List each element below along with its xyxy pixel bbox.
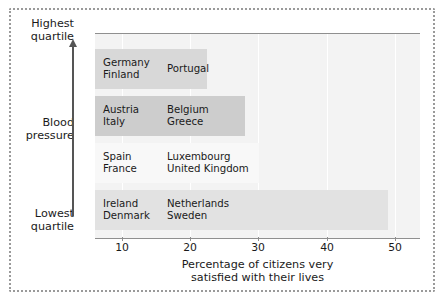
y-axis-top-label: Highest quartile xyxy=(0,18,74,43)
xtick-label-10: 10 xyxy=(102,241,142,254)
y-axis-up-arrow-icon xyxy=(72,46,74,216)
bar-lowest-quartile xyxy=(95,190,388,230)
plot-inner: Germany Finland Portugal Austria Italy B… xyxy=(95,34,420,238)
gridline-50 xyxy=(395,34,396,238)
plot-area: Germany Finland Portugal Austria Italy B… xyxy=(95,33,420,239)
xtick-label-40: 40 xyxy=(307,241,347,254)
xtick-label-30: 30 xyxy=(238,241,278,254)
xtick-label-50: 50 xyxy=(375,241,415,254)
x-axis-title: Percentage of citizens very satisfied wi… xyxy=(95,258,420,285)
y-axis-title-line2: pressure xyxy=(0,130,74,143)
xtick-label-20: 20 xyxy=(170,241,210,254)
bar-highest-quartile xyxy=(95,49,207,89)
y-axis-title-line1: Blood xyxy=(0,117,74,130)
bar-second-quartile xyxy=(95,96,245,136)
y-axis-top-label-line2: quartile xyxy=(0,31,74,44)
bar-third-quartile xyxy=(95,143,259,183)
y-axis-title: Blood pressure xyxy=(0,117,74,142)
x-axis-title-line1: Percentage of citizens very xyxy=(95,258,420,271)
y-axis-bottom-label-line1: Lowest xyxy=(0,208,74,221)
y-axis-bottom-label-line2: quartile xyxy=(0,221,74,234)
chart-figure: Highest quartile Blood pressure Lowest q… xyxy=(0,0,445,302)
x-axis-title-line2: satisfied with their lives xyxy=(95,271,420,284)
y-axis-bottom-label: Lowest quartile xyxy=(0,208,74,233)
y-axis-top-label-line1: Highest xyxy=(0,18,74,31)
